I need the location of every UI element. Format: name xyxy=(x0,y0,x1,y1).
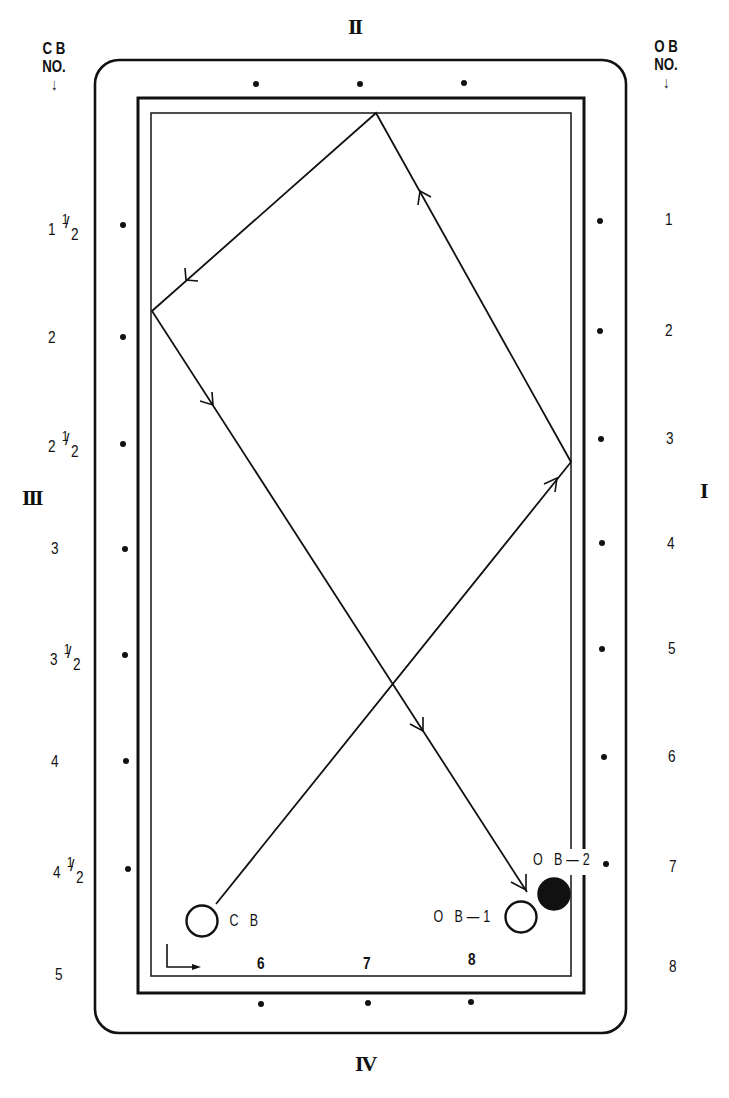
ob-number-4: 4 xyxy=(667,535,675,552)
cb-number-2-half: 2 1 / 2 xyxy=(47,432,87,462)
billiard-table xyxy=(0,0,729,1098)
cue-ball xyxy=(187,906,218,937)
ob-number-5: 5 xyxy=(668,640,676,657)
table-playing-surface xyxy=(151,113,571,976)
cb-number-2: 2 xyxy=(48,329,56,346)
cb-number-4: 4 xyxy=(51,753,59,770)
ob-number-2: 2 xyxy=(665,322,673,339)
object-ball-2-label: O B—2 xyxy=(530,849,597,875)
object-ball-1-label: O B—1 xyxy=(432,908,496,926)
path-direction-arrows xyxy=(185,191,557,890)
cb-number-3: 3 xyxy=(51,540,59,557)
bottom-number-6: 6 xyxy=(257,955,265,972)
ob-number-8: 8 xyxy=(669,958,677,975)
ob-header-line1: O B xyxy=(650,38,681,56)
rail-label-top: II xyxy=(348,16,361,38)
top-rail-diamonds xyxy=(253,80,467,87)
cb-header-line1: C B xyxy=(38,40,69,58)
cue-ball-path xyxy=(152,113,571,904)
cb-number-3-half: 3 1 / 2 xyxy=(49,645,89,675)
ob-number-7: 7 xyxy=(669,858,677,875)
ob-number-6: 6 xyxy=(668,748,676,765)
bottom-rail-diamonds xyxy=(258,999,474,1007)
down-arrow-icon: ↓ xyxy=(38,77,69,94)
object-ball-2 xyxy=(538,878,570,910)
right-rail-diamonds xyxy=(597,218,609,867)
rail-label-left: III xyxy=(22,487,42,509)
bottom-number-8: 8 xyxy=(468,951,476,968)
table-cushion-rail xyxy=(138,98,584,993)
object-ball-1 xyxy=(506,902,537,933)
arrow-icon xyxy=(544,478,557,492)
origin-arrow-marker xyxy=(167,944,201,970)
cue-ball-label: C B xyxy=(228,912,264,930)
ob-number-header: O B NO. ↓ xyxy=(650,38,681,91)
cb-header-line2: NO. xyxy=(38,58,69,76)
cb-number-4-half: 4 1 / 2 xyxy=(52,858,92,888)
left-rail-diamonds xyxy=(120,222,131,872)
cb-number-header: C B NO. ↓ xyxy=(38,40,69,93)
ob-header-line2: NO. xyxy=(650,56,681,74)
ob-number-3: 3 xyxy=(666,430,674,447)
cb-number-5: 5 xyxy=(55,966,63,983)
bottom-number-7: 7 xyxy=(363,955,371,972)
ob-number-1: 1 xyxy=(665,211,673,228)
rail-label-bottom: IV xyxy=(355,1053,375,1075)
rail-label-right: I xyxy=(700,480,707,502)
cb-number-1-half: 1 1 / 2 xyxy=(47,215,87,245)
down-arrow-icon: ↓ xyxy=(650,75,681,92)
